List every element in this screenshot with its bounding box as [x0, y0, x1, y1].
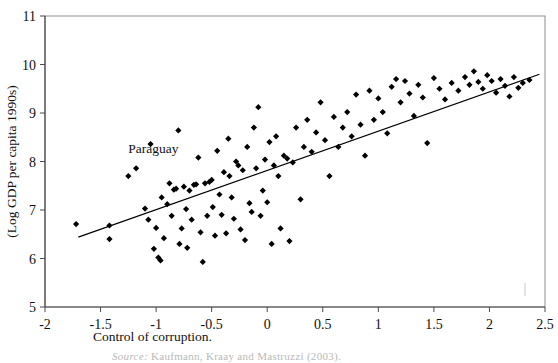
data-point [226, 173, 232, 179]
data-point [269, 241, 275, 247]
data-point [286, 238, 292, 244]
data-point [169, 213, 175, 219]
data-point [515, 85, 521, 91]
data-point [449, 80, 455, 86]
data-point [353, 91, 359, 97]
data-point [142, 205, 148, 211]
x-tick-label: 0.5 [314, 317, 332, 332]
data-point [397, 99, 403, 105]
data-point [415, 82, 421, 88]
data-point [166, 180, 172, 186]
data-point [216, 191, 222, 197]
data-point [313, 129, 319, 135]
scatter-plot-figure: 567891011-2-1.5-1-0.500.511.522.5Control… [0, 0, 558, 363]
data-point [260, 188, 266, 194]
data-point [273, 133, 279, 139]
data-point [420, 94, 426, 100]
data-point [277, 225, 283, 231]
annotation-paraguay: Paraguay [128, 141, 178, 156]
y-axis-title: (Log GDP per capita 1990s) [4, 85, 19, 237]
source-note-prefix: Source: [112, 350, 148, 362]
data-point [186, 188, 192, 194]
data-point [402, 78, 408, 84]
data-point [393, 76, 399, 82]
data-point [344, 109, 350, 115]
data-point [293, 124, 299, 130]
chart-canvas: 567891011-2-1.5-1-0.500.511.522.5Control… [0, 0, 558, 363]
data-point [357, 122, 363, 128]
x-tick-label: 1.5 [425, 317, 443, 332]
data-point [304, 117, 310, 123]
data-point [266, 139, 272, 145]
data-point [497, 76, 503, 82]
data-point [183, 206, 189, 212]
data-point [375, 95, 381, 101]
data-point [229, 194, 235, 200]
data-point [297, 196, 303, 202]
data-point [424, 140, 430, 146]
data-point [480, 86, 486, 92]
data-point [362, 153, 368, 159]
data-point [242, 237, 248, 243]
data-point [406, 91, 412, 97]
data-point [262, 156, 268, 162]
data-point [106, 236, 112, 242]
data-point [455, 88, 461, 94]
data-point [214, 148, 220, 154]
x-tick-label: 0 [264, 317, 271, 332]
data-point [133, 165, 139, 171]
data-point [436, 86, 442, 92]
data-point [431, 75, 437, 81]
data-point [159, 194, 165, 200]
data-point [175, 127, 181, 133]
data-point [200, 259, 206, 265]
data-point [219, 212, 225, 218]
y-tick-label: 11 [23, 9, 36, 24]
data-point [475, 79, 481, 85]
source-note-text: Kaufmann, Kraay and Mastruzzi (2003). [151, 350, 341, 362]
data-point [249, 209, 255, 215]
x-tick-label: 1 [375, 317, 382, 332]
data-point [145, 217, 151, 223]
data-point [221, 169, 227, 175]
y-tick-label: 8 [29, 155, 36, 170]
data-point [384, 130, 390, 136]
data-point [511, 74, 517, 80]
y-tick-label: 9 [29, 106, 36, 121]
data-point [210, 204, 216, 210]
data-point [264, 199, 270, 205]
data-point [73, 221, 79, 227]
data-point [153, 225, 159, 231]
data-point [317, 99, 323, 105]
data-point [253, 165, 259, 171]
data-point [176, 241, 182, 247]
data-point [197, 229, 203, 235]
data-point [204, 213, 210, 219]
data-point [326, 173, 332, 179]
data-point [366, 88, 372, 94]
plot-frame [45, 16, 545, 307]
data-point [184, 245, 190, 251]
y-tick-label: 5 [29, 300, 36, 315]
data-point-group [73, 68, 533, 265]
data-point [506, 93, 512, 99]
data-point [181, 184, 187, 190]
data-point [212, 233, 218, 239]
data-point [125, 173, 131, 179]
data-point [231, 216, 237, 222]
data-point [195, 155, 201, 161]
source-note: Source: Kaufmann, Kraay and Mastruzzi (2… [112, 350, 341, 362]
data-point [322, 137, 328, 143]
data-point [255, 104, 261, 110]
y-tick-label: 10 [22, 58, 36, 73]
y-tick-label: 7 [29, 203, 36, 218]
x-tick-label: 2.5 [536, 317, 554, 332]
data-point [489, 78, 495, 84]
data-point [223, 230, 229, 236]
data-point [161, 235, 167, 241]
data-point [257, 213, 263, 219]
data-point [179, 225, 185, 231]
x-tick-label: -2 [39, 317, 51, 332]
data-point [225, 136, 231, 142]
data-point [442, 96, 448, 102]
